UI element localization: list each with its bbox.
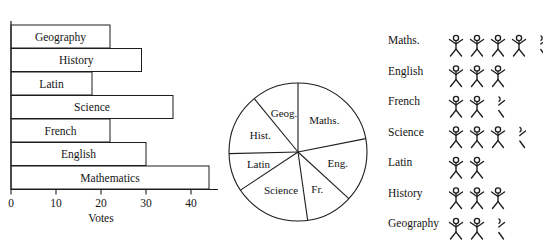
figure-head [474, 157, 479, 162]
figure-legs [472, 80, 483, 87]
bar-chart-svg: GeographyHistoryLatinScienceFrenchEnglis… [0, 0, 215, 244]
figure-head [453, 188, 458, 193]
pictogram-row-labels: Maths.EnglishFrenchScienceLatinHistoryGe… [388, 34, 439, 230]
pie-slice-label: Hist. [250, 129, 271, 141]
figure-legs [493, 202, 504, 209]
figure-leg-half [499, 233, 504, 240]
figure-legs [493, 141, 504, 148]
pictogram-figures [450, 35, 543, 239]
figure-page: GeographyHistoryLatinScienceFrenchEnglis… [0, 0, 543, 244]
figure-head [453, 127, 458, 132]
pie-chart-svg: Maths.Eng.Fr.ScienceLatinHist.Geog. [215, 70, 385, 240]
figure-legs [451, 141, 462, 148]
figure-head [495, 188, 500, 193]
bar-label: Science [74, 101, 110, 113]
pictogram-row-label: Latin [388, 156, 413, 168]
figure-head [474, 35, 479, 40]
bar-group: GeographyHistoryLatinScienceFrenchEnglis… [11, 25, 209, 189]
figure-legs [451, 80, 462, 87]
pie-slice-label: Fr. [311, 183, 323, 195]
pie-slice-label: Eng. [328, 157, 349, 169]
figure-legs [514, 49, 525, 56]
figure-head [495, 35, 500, 40]
pictogram-row-label: English [388, 65, 423, 78]
figure-legs [472, 49, 483, 56]
pie-slice-label: Geog. [271, 107, 298, 119]
figure-head [453, 218, 458, 223]
figure-legs [472, 171, 483, 178]
figure-head-half [520, 127, 522, 132]
x-axis-tick-label: 20 [95, 197, 107, 209]
figure-leg-half [499, 111, 504, 118]
pictogram-svg: Maths.EnglishFrenchScienceLatinHistoryGe… [388, 14, 543, 244]
figure-head [474, 96, 479, 101]
bar-label: Latin [39, 78, 64, 90]
figure-legs [451, 49, 462, 56]
pie-slice-label: Science [264, 184, 298, 196]
pictogram-row-label: History [388, 187, 423, 200]
figure-legs [472, 110, 483, 117]
figure-legs [472, 232, 483, 239]
figure-legs [451, 202, 462, 209]
figure-head [516, 35, 521, 40]
figure-head [453, 96, 458, 101]
figure-legs [493, 80, 504, 87]
pie-slice-label: Latin [247, 158, 271, 170]
figure-head-half [541, 36, 543, 41]
bar-label: French [45, 125, 77, 137]
pictogram-panel: Maths.EnglishFrenchScienceLatinHistoryGe… [388, 14, 543, 244]
figure-legs [451, 171, 462, 178]
figure-legs [451, 232, 462, 239]
pictogram-row-label: French [388, 95, 420, 107]
pictogram-row-label: Geography [388, 217, 439, 230]
figure-legs [451, 110, 462, 117]
bar-label: English [61, 148, 96, 161]
x-axis-tick-label: 40 [185, 197, 197, 209]
figure-head-half [499, 97, 501, 102]
bar-label: History [59, 54, 94, 67]
x-axis-tick-label: 30 [140, 197, 152, 209]
pictogram-row-label: Science [388, 126, 424, 138]
pictogram-row-label: Maths. [388, 34, 420, 46]
figure-head [474, 127, 479, 132]
x-axis-tick-label: 10 [50, 197, 62, 209]
figure-head [453, 66, 458, 71]
x-axis-tick-label: 0 [8, 197, 14, 209]
figure-head-half [499, 219, 501, 224]
figure-head [495, 66, 500, 71]
bar-label: Mathematics [80, 172, 140, 184]
pie-slice-label: Maths. [309, 114, 340, 126]
figure-head [453, 35, 458, 40]
figure-head [495, 127, 500, 132]
pie-chart-panel: Maths.Eng.Fr.ScienceLatinHist.Geog. [215, 70, 385, 240]
figure-head [474, 66, 479, 71]
bar-label: Geography [35, 31, 86, 44]
figure-head [453, 157, 458, 162]
figure-legs [493, 49, 504, 56]
x-axis-title: Votes [88, 212, 114, 224]
figure-head [474, 188, 479, 193]
figure-leg-half [520, 141, 525, 148]
figure-head [474, 218, 479, 223]
figure-legs [472, 202, 483, 209]
bar-chart-panel: GeographyHistoryLatinScienceFrenchEnglis… [0, 0, 215, 244]
figure-legs [472, 141, 483, 148]
